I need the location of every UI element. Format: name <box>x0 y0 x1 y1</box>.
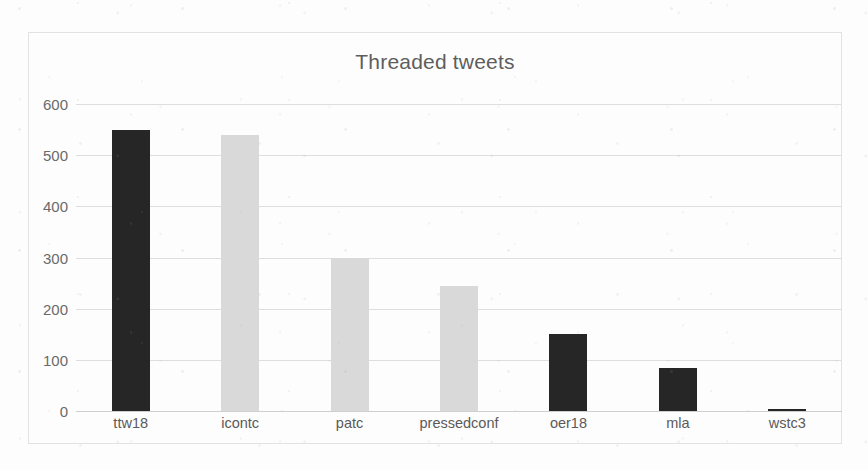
y-axis-tick-label: 600 <box>24 96 68 113</box>
gridline-300 <box>76 258 842 259</box>
chart-title: Threaded tweets <box>29 50 841 74</box>
y-axis-tick-label: 100 <box>24 351 68 368</box>
bar-patc[interactable] <box>331 258 369 412</box>
y-axis-tick-label: 500 <box>24 147 68 164</box>
x-axis-tick-label-ttw18: ttw18 <box>113 415 148 431</box>
y-axis: 0100200300400500600 <box>22 104 68 411</box>
x-axis-tick-label-pressedconf: pressedconf <box>420 415 499 431</box>
x-axis-tick-label-mla: mla <box>666 415 689 431</box>
gridline-600 <box>76 104 842 105</box>
y-axis-tick-label: 400 <box>24 198 68 215</box>
bar-wstc3[interactable] <box>768 409 806 411</box>
bar-pressedconf[interactable] <box>440 286 478 411</box>
gridline-500 <box>76 155 842 156</box>
bar-oer18[interactable] <box>549 334 587 411</box>
x-axis-tick-label-patc: patc <box>336 415 363 431</box>
x-axis-tick-label-oer18: oer18 <box>550 415 587 431</box>
gridline-0 <box>76 411 842 412</box>
plot-area <box>76 104 842 411</box>
y-axis-tick-label: 200 <box>24 300 68 317</box>
gridline-400 <box>76 206 842 207</box>
x-axis-tick-label-wstc3: wstc3 <box>769 415 806 431</box>
bar-icontc[interactable] <box>221 135 259 411</box>
bar-mla[interactable] <box>659 368 697 411</box>
y-axis-tick-label: 0 <box>24 403 68 420</box>
y-axis-tick-label: 300 <box>24 249 68 266</box>
bar-ttw18[interactable] <box>112 130 150 411</box>
x-axis-tick-label-icontc: icontc <box>221 415 259 431</box>
